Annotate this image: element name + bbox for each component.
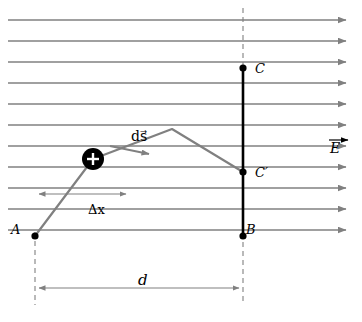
dashed-guides [35,8,243,305]
positive-charge [82,148,104,170]
field-lines [8,20,346,230]
point-c-dot [239,64,246,71]
physics-diagram: A B C C′ ds⃗ Δx d E [0,0,362,322]
label-field-e: E [330,141,340,155]
label-point-c-prime: C′ [255,166,268,179]
point-a-dot [31,232,38,239]
point-c-prime-dot [239,168,246,175]
diagram-canvas [0,0,362,322]
label-point-c: C [255,62,265,75]
label-delta-x: Δx [88,203,105,216]
label-distance-d: d [138,273,148,288]
label-displacement-element: ds⃗ [131,129,147,143]
label-point-a: A [11,223,20,236]
charge-path [35,129,243,236]
label-point-b: B [246,223,256,236]
